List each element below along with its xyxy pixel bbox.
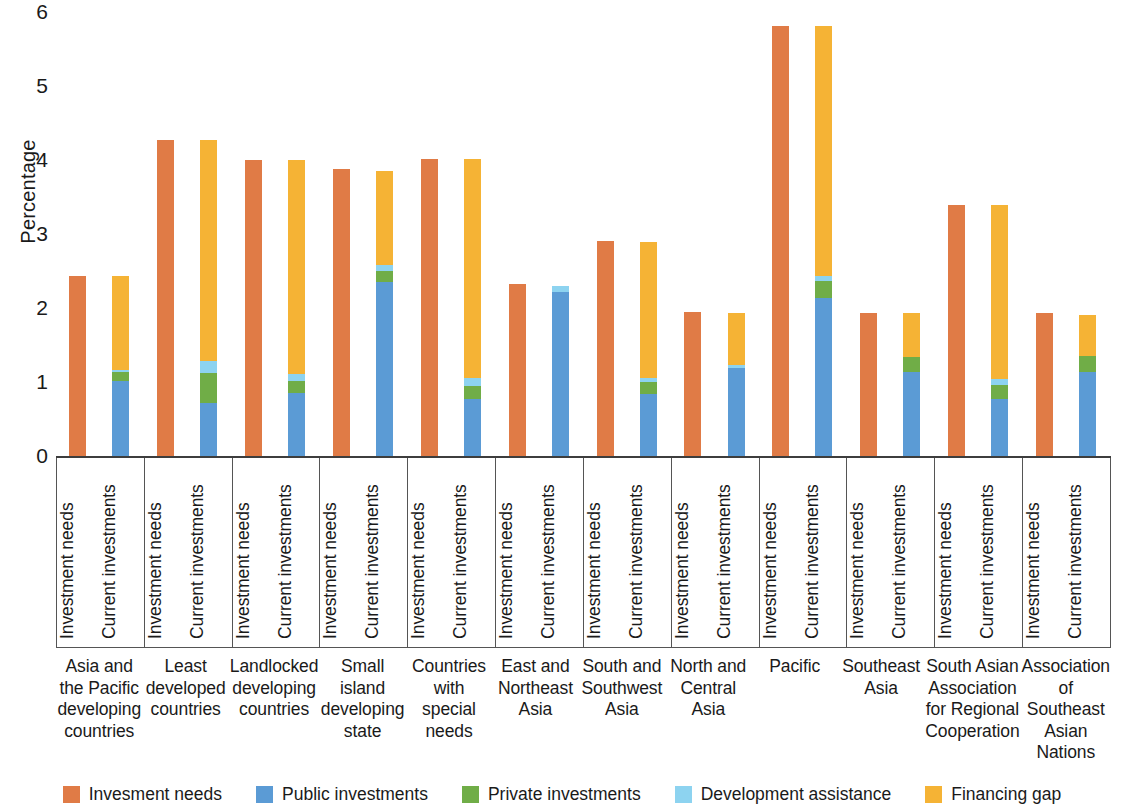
segment-development-assistance — [376, 265, 393, 271]
bar-group — [496, 12, 584, 457]
bar-investment-needs[interactable] — [69, 276, 86, 457]
legend-item[interactable]: Financing gap — [925, 784, 1061, 805]
segment-financing-gap — [112, 276, 129, 369]
bar-investment-needs[interactable] — [333, 169, 350, 457]
segment-financing-gap — [640, 242, 657, 377]
sublabel-cell: Investment needsCurrent investments — [1023, 458, 1110, 647]
legend-item[interactable]: Public investments — [256, 784, 428, 805]
segment-public — [640, 394, 657, 457]
sublabel-needs: Investment needs — [408, 502, 429, 639]
sublabel-needs: Investment needs — [57, 502, 78, 639]
bar-current-investments[interactable] — [903, 313, 920, 457]
category-label: Pacific — [751, 656, 837, 766]
category-label-line: state — [320, 721, 404, 743]
legend-item[interactable]: Private investments — [462, 784, 641, 805]
category-label: Countrieswith specialneeds — [406, 656, 492, 766]
bar-group — [56, 12, 144, 457]
legend-swatch-icon — [675, 786, 692, 803]
bar-group — [1023, 12, 1111, 457]
segment-development-assistance — [552, 286, 569, 292]
sublabel-current: Current investments — [626, 484, 647, 639]
legend-label: Public investments — [282, 784, 428, 805]
chart-legend: Invesment needsPublic investmentsPrivate… — [0, 784, 1124, 805]
sublabel-current: Current investments — [802, 484, 823, 639]
legend-label: Financing gap — [951, 784, 1061, 805]
bar-group — [759, 12, 847, 457]
category-label-line: Landlocked — [230, 656, 319, 678]
category-label-line: South Asian — [925, 656, 1019, 678]
bar-investment-needs[interactable] — [597, 241, 614, 457]
sublabel-cell: Investment needsCurrent investments — [760, 458, 848, 647]
sublabel-needs: Investment needs — [760, 502, 781, 639]
category-label-line: for Regional — [925, 699, 1019, 721]
bar-investment-needs[interactable] — [245, 160, 262, 457]
segment-financing-gap — [200, 140, 217, 361]
category-label: South andSouthwestAsia — [579, 656, 665, 766]
segment-financing-gap — [815, 26, 832, 275]
legend-label: Development assistance — [701, 784, 892, 805]
category-label-line: of Southeast — [1022, 678, 1110, 721]
bar-current-investments[interactable] — [288, 160, 305, 457]
category-label-line: the Pacific — [57, 678, 141, 700]
bar-investment-needs[interactable] — [157, 140, 174, 457]
bar-investment-needs[interactable] — [509, 284, 526, 457]
bar-current-investments[interactable] — [112, 276, 129, 457]
legend-item[interactable]: Development assistance — [675, 784, 892, 805]
bar-current-investments[interactable] — [1079, 315, 1096, 457]
category-label: Asia andthe Pacificdevelopingcountries — [56, 656, 142, 766]
bar-investment-needs[interactable] — [860, 313, 877, 457]
segment-public — [200, 403, 217, 457]
bar-investment-needs[interactable] — [421, 159, 438, 457]
bar-investment-needs[interactable] — [1036, 313, 1053, 457]
sublabel-cell: Investment needsCurrent investments — [496, 458, 584, 647]
sublabel-current: Current investments — [977, 484, 998, 639]
segment-financing-gap — [991, 205, 1008, 379]
bar-group — [320, 12, 408, 457]
sublabel-current: Current investments — [99, 484, 120, 639]
bar-group — [671, 12, 759, 457]
legend-label: Private investments — [488, 784, 641, 805]
sublabel-needs: Investment needs — [584, 502, 605, 639]
legend-item[interactable]: Invesment needs — [63, 784, 222, 805]
category-label-line: Central Asia — [666, 678, 750, 721]
segment-financing-gap — [1079, 315, 1096, 356]
segment-development-assistance — [112, 370, 129, 372]
chart-figure: Percentage 0123456 Investment needsCurre… — [0, 0, 1124, 811]
sublabel-current: Current investments — [889, 484, 910, 639]
bar-group — [935, 12, 1023, 457]
bar-group — [144, 12, 232, 457]
category-label-line: Small — [320, 656, 404, 678]
segment-private — [376, 271, 393, 282]
bar-current-investments[interactable] — [200, 140, 217, 457]
segment-development-assistance — [991, 379, 1008, 385]
category-label-line: countries — [57, 721, 141, 743]
segment-financing-gap — [903, 313, 920, 357]
segment-financing-gap — [288, 160, 305, 374]
bar-investment-needs[interactable] — [684, 312, 701, 457]
bar-investment-needs[interactable] — [772, 26, 789, 457]
sublabel-current: Current investments — [450, 484, 471, 639]
bar-investment-needs[interactable] — [948, 205, 965, 457]
bar-group — [847, 12, 935, 457]
legend-label: Invesment needs — [89, 784, 222, 805]
sublabel-cell: Investment needsCurrent investments — [408, 458, 496, 647]
category-label: South AsianAssociationfor RegionalCooper… — [924, 656, 1020, 766]
bar-current-investments[interactable] — [728, 313, 745, 457]
segment-public — [991, 399, 1008, 457]
bar-current-investments[interactable] — [815, 26, 832, 457]
category-label-line: with special — [407, 678, 491, 721]
category-label-line: East and — [493, 656, 577, 678]
sublabel-needs: Investment needs — [145, 502, 166, 639]
bar-current-investments[interactable] — [376, 171, 393, 457]
bar-current-investments[interactable] — [464, 159, 481, 457]
bar-current-investments[interactable] — [991, 205, 1008, 457]
sublabel-current: Current investments — [275, 484, 296, 639]
y-axis-title: Percentage — [17, 112, 40, 272]
sublabel-needs: Investment needs — [672, 502, 693, 639]
bar-current-investments[interactable] — [640, 242, 657, 457]
y-tick-3: 3 — [18, 223, 48, 244]
segment-development-assistance — [200, 361, 217, 374]
category-label-line: developed — [143, 678, 227, 700]
bar-group — [232, 12, 320, 457]
bar-current-investments[interactable] — [552, 286, 569, 457]
